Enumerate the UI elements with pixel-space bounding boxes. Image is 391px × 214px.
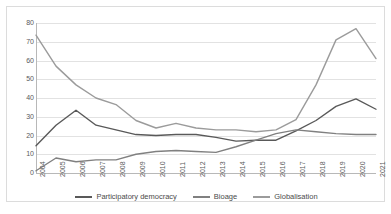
x-axis-tick-label: 2013: [219, 161, 226, 177]
legend-swatch-icon: [253, 196, 270, 198]
series-container: [36, 23, 376, 173]
x-axis-tick-label: 2017: [299, 161, 306, 177]
x-axis-tick-label: 2008: [119, 161, 126, 177]
y-axis-tick-label: 80: [12, 19, 34, 26]
x-axis-tick-label: 2015: [259, 161, 266, 177]
x-axis-tick-label: 2011: [179, 162, 186, 177]
y-axis-tick-label: 30: [12, 113, 34, 120]
y-axis-tick-label: 60: [12, 57, 34, 64]
x-axis-tick-label: 2010: [159, 161, 166, 177]
x-axis-tick-label: 2012: [199, 161, 206, 177]
chart-frame: 80706050403020100 Participatory democrac…: [6, 6, 385, 202]
x-axis-tick-label: 2016: [279, 161, 286, 177]
y-axis-tick-label: 10: [12, 150, 34, 157]
y-axis-tick-label: 70: [12, 38, 34, 45]
legend-swatch-icon: [193, 196, 210, 198]
y-axis-tick-label: 0: [12, 169, 34, 176]
x-axis-tick-label: 2020: [359, 161, 366, 177]
x-axis-tick-label: 2004: [39, 161, 46, 177]
chart-legend: Participatory democracyBioageGlobalisati…: [7, 193, 386, 201]
series-line: [36, 29, 376, 132]
x-axis-tick-label: 2014: [239, 161, 246, 177]
x-axis-tick-label: 2007: [99, 161, 106, 177]
legend-item[interactable]: Participatory democracy: [75, 193, 176, 201]
legend-item-label: Globalisation: [274, 193, 317, 201]
legend-item[interactable]: Bioage: [193, 193, 237, 201]
legend-item-label: Bioage: [214, 193, 237, 201]
legend-item-label: Participatory democracy: [96, 193, 176, 201]
x-axis-tick-label: 2019: [339, 161, 346, 177]
series-line: [36, 99, 376, 146]
line-chart-figure: 80706050403020100 Participatory democrac…: [0, 0, 391, 214]
x-axis-tick-label: 2005: [59, 161, 66, 177]
x-axis-tick-label: 2006: [79, 161, 86, 177]
y-axis-tick-label: 40: [12, 94, 34, 101]
x-axis-tick-label: 2018: [319, 161, 326, 177]
legend-swatch-icon: [75, 196, 92, 198]
x-axis-tick-label: 2009: [139, 161, 146, 177]
x-axis-tick-label: 2021: [379, 161, 386, 177]
y-axis: 80706050403020100: [7, 7, 34, 189]
y-axis-tick-label: 50: [12, 75, 34, 82]
legend-item[interactable]: Globalisation: [253, 193, 317, 201]
y-axis-tick-label: 20: [12, 132, 34, 139]
